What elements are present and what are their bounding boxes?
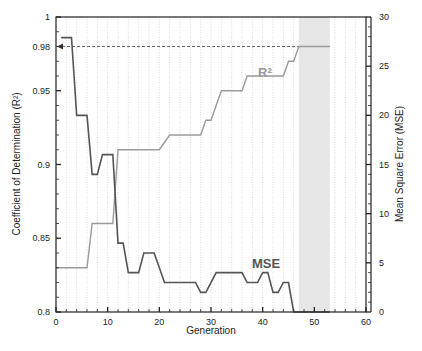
left-axis-ticks: 0.80.850.90.950.981 [32,12,61,317]
reference-line-0.98 [57,44,330,50]
x-tick-label: 60 [361,317,371,327]
r2-label: R² [258,65,272,80]
left-axis-title: Coefficient of Determination (R²) [11,92,22,235]
shaded-region [299,17,330,312]
right-tick-label: 20 [379,110,389,120]
right-tick-label: 5 [379,258,384,268]
x-axis-title: Generation [186,325,235,336]
left-tick-label: 0.9 [37,160,50,170]
right-tick-label: 15 [379,160,389,170]
x-tick-label: 0 [53,317,58,327]
left-tick-label: 1 [45,12,50,22]
x-tick-label: 40 [258,317,268,327]
right-axis-ticks: 051015202530 [366,12,389,317]
mse-label: MSE [252,256,281,271]
right-tick-label: 30 [379,12,389,22]
right-tick-label: 25 [379,61,389,71]
right-tick-label: 0 [379,307,384,317]
chart: 0102030405060 0.80.850.90.950.981 051015… [0,0,422,351]
left-tick-label: 0.98 [32,42,50,52]
x-tick-label: 20 [154,317,164,327]
left-tick-label: 0.8 [37,307,50,317]
right-axis-title: Mean Square Error (MSE) [394,106,405,222]
x-tick-label: 50 [309,317,319,327]
left-tick-label: 0.95 [32,86,50,96]
left-tick-label: 0.85 [32,233,50,243]
x-tick-label: 10 [103,317,113,327]
right-tick-label: 10 [379,209,389,219]
mse-series-line [61,38,330,312]
